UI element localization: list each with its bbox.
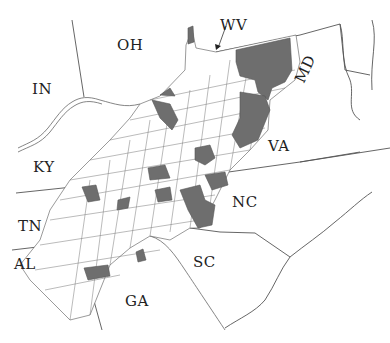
- coast-nc: [290, 192, 372, 257]
- border-va-nc-east: [300, 152, 360, 162]
- map-canvas: [0, 0, 390, 343]
- border-oh-in: [72, 20, 84, 97]
- label-al: AL: [14, 255, 36, 273]
- label-ky: KY: [33, 158, 55, 176]
- wv-arrow-head: [215, 44, 221, 50]
- label-sc: SC: [193, 253, 216, 271]
- label-nc: NC: [232, 193, 258, 211]
- label-wv: WV: [220, 16, 247, 34]
- delmarva: [340, 20, 374, 90]
- label-va: VA: [268, 137, 290, 155]
- coast-sc: [225, 257, 290, 328]
- label-tn: TN: [18, 217, 42, 235]
- sc-ga-river: [150, 236, 225, 330]
- label-ga: GA: [125, 292, 149, 310]
- label-oh: OH: [117, 36, 143, 54]
- label-in: IN: [32, 80, 52, 98]
- ohio-river-2: [18, 102, 102, 152]
